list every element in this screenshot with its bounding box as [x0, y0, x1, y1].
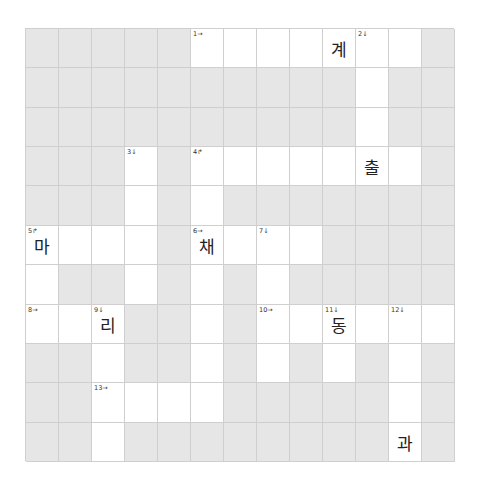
crossword-cell[interactable] — [92, 344, 125, 383]
blocked-cell — [92, 68, 125, 107]
blocked-cell — [257, 423, 290, 462]
blocked-cell — [26, 383, 59, 422]
blocked-cell — [125, 108, 158, 147]
cell-letter: 출 — [356, 156, 388, 180]
crossword-cell[interactable]: 2↓ — [356, 29, 389, 68]
crossword-cell[interactable] — [158, 383, 191, 422]
crossword-cell[interactable] — [257, 29, 290, 68]
crossword-cell[interactable]: 12↓ — [389, 305, 422, 344]
crossword-cell[interactable] — [125, 383, 158, 422]
blocked-cell — [92, 186, 125, 225]
crossword-cell[interactable] — [257, 265, 290, 304]
crossword-cell[interactable] — [356, 108, 389, 147]
crossword-cell[interactable] — [290, 147, 323, 186]
clue-number: 12↓ — [391, 306, 405, 314]
cell-letter: 리 — [92, 314, 124, 338]
blocked-cell — [59, 108, 92, 147]
blocked-cell — [191, 108, 224, 147]
crossword-cell[interactable]: 8→ — [26, 305, 59, 344]
crossword-cell[interactable] — [26, 265, 59, 304]
crossword-cell[interactable] — [323, 147, 356, 186]
blocked-cell — [422, 383, 455, 422]
blocked-cell — [158, 226, 191, 265]
blocked-cell — [158, 305, 191, 344]
blocked-cell — [422, 68, 455, 107]
crossword-cell[interactable] — [92, 423, 125, 462]
blocked-cell — [389, 265, 422, 304]
crossword-cell[interactable] — [224, 147, 257, 186]
crossword-cell[interactable] — [389, 344, 422, 383]
blocked-cell — [26, 344, 59, 383]
crossword-cell[interactable] — [191, 344, 224, 383]
crossword-cell[interactable]: 10→ — [257, 305, 290, 344]
crossword-cell[interactable] — [125, 226, 158, 265]
blocked-cell — [59, 147, 92, 186]
crossword-cell[interactable] — [389, 383, 422, 422]
crossword-cell[interactable] — [224, 29, 257, 68]
crossword-cell[interactable] — [389, 147, 422, 186]
crossword-cell[interactable] — [125, 265, 158, 304]
crossword-cell[interactable]: 9↓리 — [92, 305, 125, 344]
blocked-cell — [290, 186, 323, 225]
crossword-cell[interactable]: 과 — [389, 423, 422, 462]
cell-letter: 마 — [26, 235, 58, 259]
blocked-cell — [290, 68, 323, 107]
crossword-cell[interactable]: 계 — [323, 29, 356, 68]
crossword-cell[interactable] — [92, 226, 125, 265]
blocked-cell — [290, 108, 323, 147]
blocked-cell — [224, 108, 257, 147]
crossword-cell[interactable] — [191, 383, 224, 422]
crossword-cell[interactable] — [323, 344, 356, 383]
blocked-cell — [224, 305, 257, 344]
crossword-cell[interactable] — [422, 305, 455, 344]
blocked-cell — [356, 226, 389, 265]
blocked-cell — [224, 265, 257, 304]
blocked-cell — [59, 68, 92, 107]
blocked-cell — [257, 186, 290, 225]
clue-number: 4↱ — [193, 148, 203, 156]
blocked-cell — [125, 68, 158, 107]
crossword-cell[interactable] — [356, 68, 389, 107]
blocked-cell — [158, 344, 191, 383]
crossword-cell[interactable] — [59, 305, 92, 344]
blocked-cell — [257, 68, 290, 107]
blocked-cell — [224, 383, 257, 422]
crossword-cell[interactable]: 11↓동 — [323, 305, 356, 344]
crossword-cell[interactable] — [257, 344, 290, 383]
crossword-cell[interactable] — [257, 147, 290, 186]
crossword-cell[interactable] — [125, 186, 158, 225]
crossword-cell[interactable]: 4↱ — [191, 147, 224, 186]
crossword-cell[interactable]: 3↓ — [125, 147, 158, 186]
crossword-cell[interactable] — [191, 186, 224, 225]
crossword-cell[interactable] — [290, 29, 323, 68]
blocked-cell — [422, 29, 455, 68]
clue-number: 9↓ — [94, 306, 104, 314]
crossword-cell[interactable] — [290, 305, 323, 344]
crossword-cell[interactable]: 5↱마 — [26, 226, 59, 265]
crossword-cell[interactable] — [290, 226, 323, 265]
crossword-cell[interactable] — [191, 265, 224, 304]
crossword-grid: 1→계2↓3↓4↱출5↱마6→채7↓8→9↓리10→11↓동12↓13→과 — [25, 28, 454, 461]
crossword-cell[interactable] — [191, 305, 224, 344]
blocked-cell — [224, 68, 257, 107]
crossword-cell[interactable]: 13→ — [92, 383, 125, 422]
crossword-cell[interactable] — [59, 226, 92, 265]
cell-letter: 계 — [323, 38, 355, 62]
blocked-cell — [158, 423, 191, 462]
crossword-cell[interactable] — [389, 29, 422, 68]
blocked-cell — [26, 68, 59, 107]
blocked-cell — [323, 68, 356, 107]
crossword-cell[interactable] — [356, 305, 389, 344]
blocked-cell — [158, 29, 191, 68]
blocked-cell — [26, 423, 59, 462]
crossword-cell[interactable] — [224, 226, 257, 265]
crossword-cell[interactable]: 1→ — [191, 29, 224, 68]
blocked-cell — [125, 29, 158, 68]
crossword-cell[interactable]: 7↓ — [257, 226, 290, 265]
blocked-cell — [422, 108, 455, 147]
crossword-cell[interactable]: 6→채 — [191, 226, 224, 265]
blocked-cell — [59, 423, 92, 462]
crossword-cell[interactable]: 출 — [356, 147, 389, 186]
blocked-cell — [290, 383, 323, 422]
blocked-cell — [389, 68, 422, 107]
